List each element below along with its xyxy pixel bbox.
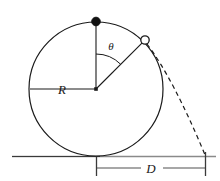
physics-diagram-figure: R θ D: [0, 0, 220, 181]
radius-line-theta: [96, 42, 143, 89]
diagram-canvas: R θ D: [0, 0, 220, 181]
projectile-trajectory-dashed: [147, 44, 206, 156]
center-point-marker: [94, 87, 98, 91]
angle-label-theta: θ: [108, 40, 114, 52]
theta-arc: [96, 54, 121, 64]
radius-label-R: R: [57, 82, 66, 97]
ball-open-circle: [141, 36, 149, 44]
distance-label-D: D: [145, 161, 156, 176]
top-point-filled-dot: [92, 17, 101, 26]
